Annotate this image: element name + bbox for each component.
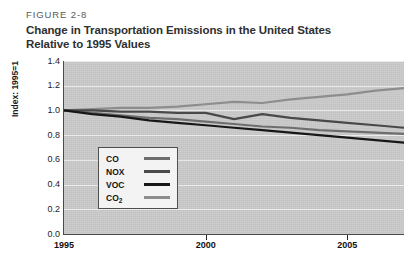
- series-line-voc: [64, 110, 404, 142]
- y-tick-label: 1.0: [30, 106, 60, 115]
- y-tick-label: 0.4: [30, 180, 60, 189]
- series-line-co2: [64, 88, 404, 110]
- figure-title-line-1: Change in Transportation Emissions in th…: [26, 23, 396, 37]
- legend-item-label: CO: [106, 154, 136, 164]
- y-axis-title: Index: 1995=1: [10, 61, 20, 117]
- x-tick-label: 2000: [196, 240, 216, 250]
- figure-title: Change in Transportation Emissions in th…: [26, 23, 396, 51]
- figure-header: FIGURE 2-8 Change in Transportation Emis…: [26, 9, 396, 51]
- legend-color-swatch: [144, 183, 170, 186]
- y-axis-tick-labels: 0.00.20.40.60.81.01.21.4: [26, 61, 60, 234]
- y-tick-label: 0.6: [30, 155, 60, 164]
- chart: Index: 1995=1 0.00.20.40.60.81.01.21.4 1…: [26, 61, 404, 247]
- legend-color-swatch: [144, 157, 170, 160]
- legend-item[interactable]: CO2: [106, 191, 170, 204]
- legend-color-swatch: [144, 170, 170, 173]
- figure-title-line-2: Relative to 1995 Values: [26, 37, 396, 51]
- series-line-nox: [64, 110, 404, 127]
- legend-item-label: CO2: [106, 193, 136, 203]
- series-line-co: [64, 110, 404, 133]
- chart-legend: CONOXVOCCO2: [98, 147, 178, 209]
- legend-color-swatch: [144, 196, 170, 199]
- legend-item-label: NOX: [106, 167, 136, 177]
- y-tick-label: 0.2: [30, 205, 60, 214]
- legend-item[interactable]: VOC: [106, 178, 170, 191]
- y-tick-label: 1.4: [30, 57, 60, 66]
- legend-item[interactable]: NOX: [106, 165, 170, 178]
- figure-container: FIGURE 2-8 Change in Transportation Emis…: [0, 0, 414, 277]
- x-tick-label: 2005: [337, 240, 357, 250]
- figure-number-label: FIGURE 2-8: [26, 9, 396, 21]
- y-tick-label: 1.2: [30, 81, 60, 90]
- x-axis-line: [63, 234, 404, 235]
- y-tick-label: 0.8: [30, 131, 60, 140]
- legend-item[interactable]: CO: [106, 152, 170, 165]
- legend-item-label: VOC: [106, 180, 136, 190]
- y-tick-label: 0.0: [30, 230, 60, 239]
- x-tick-label: 1995: [54, 240, 74, 250]
